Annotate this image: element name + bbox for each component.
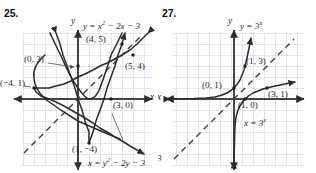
point-0-1 [232, 86, 235, 89]
plot-27 [158, 0, 316, 173]
point-label-4-5: (4, 5) [86, 35, 106, 44]
curve-set-25 [34, 33, 148, 154]
equation-text: y = x2 − 2x − 3 [83, 21, 140, 31]
point-label-0-1: (0, 1) [202, 81, 222, 90]
y-axis-label-27: y [228, 17, 232, 26]
x-axis-label-25: x [150, 93, 154, 102]
point-label-3-1: (3, 1) [268, 90, 288, 99]
y-axis-label-25: y [71, 17, 75, 26]
leader-lines-25 [24, 63, 123, 140]
equation-text: y = 3x [240, 21, 262, 31]
point-5-4 [131, 53, 134, 56]
point-label-neg4-1: (−4, 1) [0, 79, 25, 88]
equation-exponential-27: y = 3x [240, 22, 262, 31]
equation-text: x = y2 − 2y − 3 [88, 158, 145, 168]
equation-parabola-right-25: x = y2 − 2y − 3 [88, 159, 145, 168]
equation-logarithmic-27: x = 3y [244, 119, 266, 128]
point-label-1-neg4: (1, −4) [72, 145, 97, 154]
point-label-1-0: (1, 0) [238, 101, 258, 110]
point-label-1-3: (1, 3) [246, 57, 266, 66]
point-label-5-4: (5, 4) [125, 62, 145, 71]
point-0-3 [76, 64, 79, 67]
equation-parabola-up-25: y = x2 − 2x − 3 [83, 22, 140, 31]
figure-27: 27. 3 [158, 0, 316, 173]
point-label-3-0: (3, 0) [113, 101, 133, 110]
figure-25: 25. [0, 0, 158, 173]
point-4-5 [120, 42, 123, 45]
point-neg4-1 [32, 86, 35, 89]
equation-text: x = 3y [244, 118, 266, 128]
point-label-0-3: (0, 3) [24, 55, 44, 64]
x-axis-label-27: x [158, 93, 161, 102]
